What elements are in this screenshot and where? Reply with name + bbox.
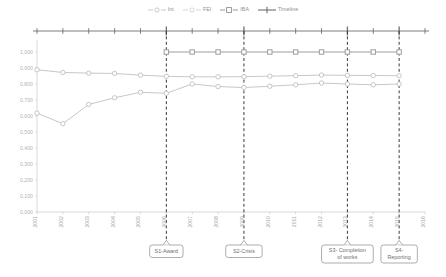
series-marker [216,50,220,54]
callout-pointer [241,240,248,245]
series-marker [242,50,246,54]
legend-label-iba: IBA [240,7,249,12]
series-marker [345,73,349,77]
x-tick-label: 2010 [265,216,271,228]
x-tick-label: 2003 [84,216,90,228]
series-marker [345,82,349,86]
series-fei [35,81,402,126]
series-marker [242,74,246,78]
series-marker [164,74,168,78]
x-tick-label: 2001 [32,216,38,228]
y-tick-label: 0,300 [20,161,33,167]
legend-marker-circle-open-icon [148,6,166,14]
x-tick-label: 2006 [161,216,167,228]
callout-pointer [163,240,170,245]
x-tick-label: 2002 [58,216,64,228]
event-callout-s3: S3- Completionof works [322,240,374,263]
x-tick-label: 2015 [394,216,400,228]
event-callouts-group: S1-AwardS2-CrisisS3- Completionof worksS… [150,240,418,263]
x-tick-label: 2011 [291,216,297,227]
series-marker [61,70,65,74]
chart-container: Int FEI IBA Timeline [0,0,446,277]
event-callout-s2: S2-Crisis [226,240,262,257]
y-tick-label: 0,100 [20,193,33,199]
series-marker [216,84,220,88]
series-marker [190,82,194,86]
series-marker [268,50,272,54]
series-group [35,50,402,126]
series-marker [371,83,375,87]
callout-label: S4- [395,247,404,253]
series-marker [345,50,349,54]
series-marker [397,50,401,54]
x-axis-labels: 2001200220032004200520062007200820092010… [32,216,426,228]
x-axis [37,212,425,214]
legend-item-fei[interactable]: FEI [183,6,211,14]
legend-item-timeline[interactable]: Timeline [258,6,298,14]
y-axis: 1,0000,9000,8000,7000,6000,5000,4000,300… [20,40,37,215]
series-marker [112,71,116,75]
callout-pointer [344,240,351,245]
chart-plot-area: 1,0000,9000,8000,7000,6000,5000,4000,300… [0,0,446,277]
series-marker [35,111,39,115]
legend-label-timeline: Timeline [278,7,298,12]
series-marker [216,75,220,79]
x-tick-label: 2005 [135,216,141,228]
series-marker [293,83,297,87]
y-tick-label: 0,400 [20,145,33,151]
series-marker [319,81,323,85]
y-tick-label: 0,500 [20,129,33,135]
callout-pointer [396,240,403,245]
series-marker [319,50,323,54]
series-marker [319,73,323,77]
series-marker [164,50,168,54]
x-tick-label: 2016 [420,216,426,228]
callout-label: S3- Completion [329,247,366,253]
series-marker [138,73,142,77]
x-tick-label: 2007 [187,216,193,228]
legend-item-int[interactable]: Int [148,6,174,14]
y-tick-label: 0,200 [20,177,33,183]
legend-marker-square-open-icon [220,6,238,14]
x-tick-label: 2014 [368,216,374,228]
x-tick-label: 2012 [317,216,323,228]
callout-label: S1-Award [155,248,179,254]
x-tick-label: 2013 [342,216,348,228]
series-marker [371,73,375,77]
x-tick-label: 2004 [110,216,116,228]
event-lines-group [166,31,399,241]
x-tick-label: 2009 [239,216,245,228]
series-marker [87,102,91,106]
y-tick-label: 0,900 [20,65,33,71]
series-marker [190,50,194,54]
series-marker [268,84,272,88]
series-marker [61,121,65,125]
series-marker [164,91,168,95]
legend-marker-plus-icon [258,6,276,14]
legend-marker-circle-open-icon [183,6,201,14]
series-marker [397,82,401,86]
series-marker [87,71,91,75]
series-int [35,68,402,79]
series-marker [293,73,297,77]
y-tick-label: 0,700 [20,97,33,103]
series-marker [268,74,272,78]
chart-legend: Int FEI IBA Timeline [0,6,446,14]
legend-item-iba[interactable]: IBA [220,6,249,14]
y-tick-label: 0,000 [20,209,33,215]
callout-label: of works [337,254,357,260]
legend-label-int: Int [168,7,174,12]
series-marker [190,75,194,79]
series-marker [397,73,401,77]
series-marker [35,68,39,72]
series-marker [293,50,297,54]
callout-label: S2-Crisis [233,248,255,254]
x-tick-label: 2008 [213,216,219,228]
event-callout-s1: S1-Award [150,240,183,257]
callout-label: Reporting [387,254,410,260]
series-marker [138,90,142,94]
series-iba [164,50,401,54]
series-marker [112,96,116,100]
event-callout-s4: S4-Reporting [381,240,417,263]
timeline-axis [33,27,429,36]
